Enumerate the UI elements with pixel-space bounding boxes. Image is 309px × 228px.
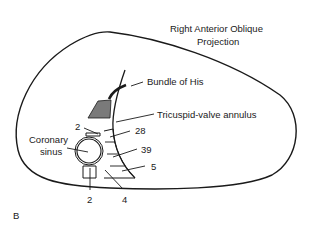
leader-4 <box>105 170 123 189</box>
label-count-28: 28 <box>135 125 146 136</box>
title-line-1: Right Anterior Oblique <box>170 23 263 34</box>
leader-tricuspid <box>116 114 154 122</box>
label-coronary-sinus-1: Coronary <box>29 134 68 145</box>
leader-bundle-of-his <box>131 82 143 86</box>
label-count-2-bottom: 2 <box>87 194 92 205</box>
title-line-2: Projection <box>197 36 239 47</box>
annulus-segment-wedge <box>104 129 135 178</box>
label-bundle-of-his: Bundle of His <box>147 76 204 87</box>
coronary-sinus-ring <box>75 137 103 165</box>
label-tricuspid-annulus: Tricuspid-valve annulus <box>157 109 257 120</box>
label-count-5: 5 <box>151 161 156 172</box>
bottom-box <box>83 166 96 178</box>
small-ledge <box>86 133 100 136</box>
shaded-region <box>88 100 111 118</box>
panel-label: B <box>13 210 19 221</box>
label-coronary-sinus-2: sinus <box>40 146 62 157</box>
label-count-39: 39 <box>141 144 152 155</box>
diagram-canvas: Right Anterior Oblique Projection Bundle… <box>0 0 309 228</box>
label-count-4: 4 <box>122 194 127 205</box>
label-count-2-top: 2 <box>75 121 80 132</box>
